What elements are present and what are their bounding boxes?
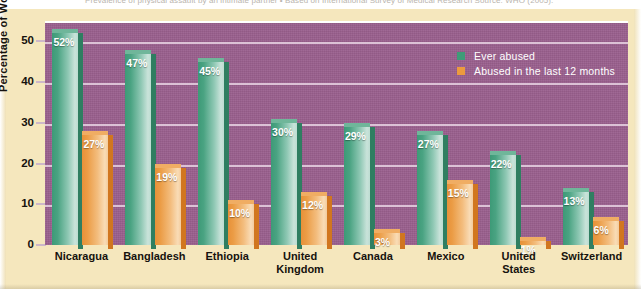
bar-side-face [327, 196, 332, 249]
y-tick-label: 40 [8, 75, 34, 87]
bar-value-label: 45% [199, 65, 220, 77]
bar-front-face [82, 135, 108, 245]
y-tick-label: 30 [8, 116, 34, 128]
bar-abused-last-12-months[interactable]: 10% [228, 204, 254, 245]
bar-ever-abused[interactable]: 13% [563, 192, 589, 245]
bar-ever-abused[interactable]: 30% [271, 123, 297, 245]
bar-front-face [198, 62, 224, 245]
x-axis-label: Ethiopia [191, 250, 264, 263]
x-axis-label: Nicaragua [45, 250, 118, 263]
bar-value-label: 47% [126, 57, 147, 69]
bar-ever-abused[interactable]: 29% [344, 127, 370, 245]
y-tick-label: 50 [8, 34, 34, 46]
bar-side-face [516, 155, 521, 249]
legend-swatch-orange-icon [457, 67, 465, 75]
plot-area: 52%27%47%19%45%10%30%12%29%3%27%15%22%1%… [45, 21, 628, 245]
bar-ever-abused[interactable]: 47% [125, 54, 151, 245]
bar-value-label: 6% [594, 224, 609, 236]
page-edge-right [634, 9, 641, 289]
gridline [45, 42, 628, 44]
bar-abused-last-12-months[interactable]: 1% [520, 241, 546, 245]
y-tick-label: 20 [8, 157, 34, 169]
x-axis-label: Switzerland [555, 250, 628, 263]
bar-abused-last-12-months[interactable]: 12% [301, 196, 327, 245]
bar-side-face [400, 233, 405, 249]
source-caption-text: Prevalence of physical assault by an int… [85, 0, 553, 5]
legend-swatch-green-icon [457, 52, 465, 60]
bar-ever-abused[interactable]: 22% [490, 155, 516, 245]
bar-front-face [344, 127, 370, 245]
bar-abused-last-12-months[interactable]: 15% [447, 184, 473, 245]
bar-ever-abused[interactable]: 52% [52, 33, 78, 245]
bar-side-face [181, 168, 186, 249]
bar-front-face [271, 123, 297, 245]
bar-side-face [619, 221, 624, 249]
bar-front-face [52, 33, 78, 245]
bar-value-label: 29% [345, 130, 366, 142]
bar-value-label: 27% [83, 138, 104, 150]
x-axis-label: Bangladesh [118, 250, 191, 263]
bar-side-face [473, 184, 478, 249]
bar-value-label: 10% [229, 207, 250, 219]
bar-value-label: 12% [302, 199, 323, 211]
x-axis-label: UnitedStates [482, 250, 555, 275]
bar-side-face [108, 135, 113, 249]
y-tick-label: 10 [8, 197, 34, 209]
bar-front-face [417, 135, 443, 245]
page-edge-bottom [0, 284, 641, 289]
bar-value-label: 15% [448, 187, 469, 199]
chart-page: Prevalence of physical assault by an int… [0, 0, 641, 289]
bar-value-label: 27% [418, 138, 439, 150]
bar-ever-abused[interactable]: 45% [198, 62, 224, 245]
bar-ever-abused[interactable]: 27% [417, 135, 443, 245]
bar-front-face [125, 54, 151, 245]
x-axis-label: Mexico [409, 250, 482, 263]
bar-value-label: 52% [53, 36, 74, 48]
bar-side-face [546, 241, 551, 249]
legend-label-ever-abused: Ever abused [474, 50, 535, 62]
x-axis-label: Canada [337, 250, 410, 263]
bar-abused-last-12-months[interactable]: 27% [82, 135, 108, 245]
x-axis-label: UnitedKingdom [264, 250, 337, 275]
bar-value-label: 19% [156, 171, 177, 183]
bar-value-label: 30% [272, 126, 293, 138]
bar-abused-last-12-months[interactable]: 19% [155, 168, 181, 245]
bar-abused-last-12-months[interactable]: 3% [374, 233, 400, 245]
bar-value-label: 3% [375, 236, 390, 248]
y-tick-label: 0 [8, 238, 34, 250]
bar-value-label: 13% [564, 195, 585, 207]
bar-abused-last-12-months[interactable]: 6% [593, 221, 619, 245]
legend-label-abused-last-12-months: Abused in the last 12 months [474, 65, 615, 77]
bar-side-face [254, 204, 259, 249]
bar-value-label: 22% [491, 158, 512, 170]
source-caption-strip: Prevalence of physical assault by an int… [0, 0, 641, 9]
